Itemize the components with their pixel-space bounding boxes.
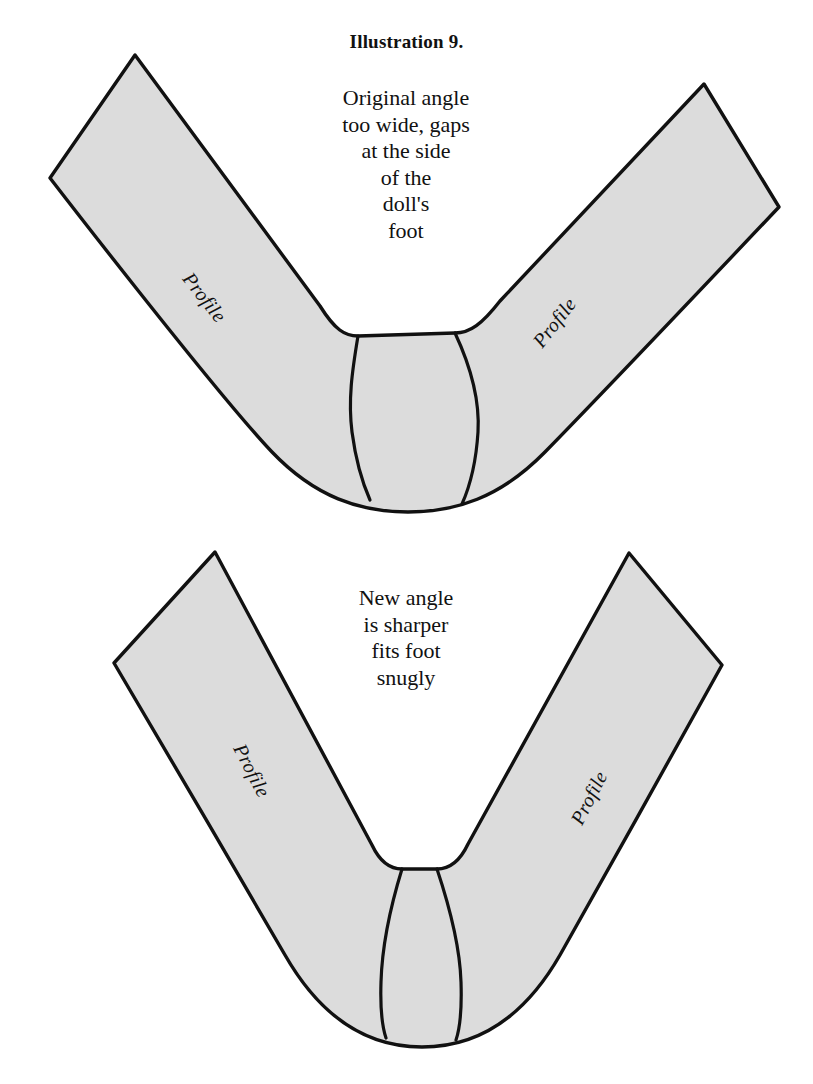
illustration-page: Illustration 9. Original angle too wide,… (0, 0, 813, 1084)
top-figure-profile-label-right: Profile (528, 293, 581, 352)
bottom-figure-profile-label-right: Profile (566, 767, 612, 828)
top-figure-caption: Original angle too wide, gaps at the sid… (286, 85, 526, 244)
page-title: Illustration 9. (0, 31, 813, 53)
top-figure-left-seam (350, 336, 370, 500)
bottom-figure-left-seam (381, 869, 402, 1038)
bottom-figure-caption: New angle is sharper fits foot snugly (286, 585, 526, 691)
top-figure-profile-label-left: Profile (178, 268, 231, 327)
bottom-figure-profile-label-left: Profile (229, 740, 275, 801)
bottom-figure-right-seam (437, 869, 461, 1040)
top-figure-right-seam (455, 333, 478, 504)
